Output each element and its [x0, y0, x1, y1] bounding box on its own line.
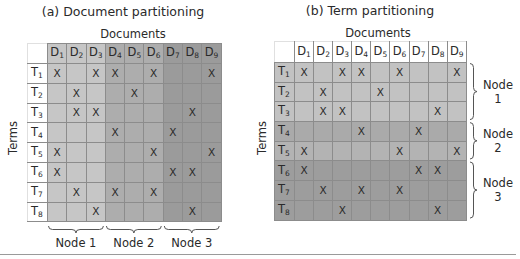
- node-brace-2: [470, 123, 477, 159]
- panel-b-node-braces: [0, 0, 520, 259]
- node-brace-1: [470, 64, 477, 120]
- panel-b-node-label-3: Node3: [479, 176, 517, 204]
- bottom-divider-rule: [0, 254, 516, 255]
- panel-b-node-label-2: Node2: [479, 127, 517, 155]
- panel-b-node-label-1: Node1: [479, 78, 517, 106]
- node-brace-3: [470, 162, 477, 218]
